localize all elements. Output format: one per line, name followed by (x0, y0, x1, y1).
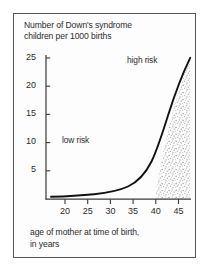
x-tick-label-35: 35 (123, 206, 143, 216)
x-axis-ticks (65, 199, 179, 204)
x-tick-label-25: 25 (78, 206, 98, 216)
x-axis-label-line-1: age of mother at time of birth, (30, 227, 195, 239)
x-tick-label-45: 45 (169, 206, 189, 216)
x-tick-label-20: 20 (55, 206, 75, 216)
x-axis-label-line-2: in years (30, 239, 195, 251)
x-tick-label-40: 40 (146, 206, 166, 216)
high-risk-annotation: high risk (127, 55, 157, 65)
y-tick-label-10: 10 (16, 136, 36, 146)
x-axis-label: age of mother at time of birth, in years (30, 227, 195, 250)
y-axis-ticks (46, 58, 50, 171)
x-tick-label-30: 30 (100, 206, 120, 216)
high-risk-shaded-region (156, 58, 190, 199)
chart-frame: Number of Down's syndrome children per 1… (13, 13, 196, 258)
chart-plot-area (14, 14, 197, 259)
y-tick-label-20: 20 (16, 80, 36, 90)
low-risk-annotation: low risk (62, 135, 89, 145)
y-tick-label-15: 15 (16, 108, 36, 118)
y-tick-label-25: 25 (16, 52, 36, 62)
y-tick-label-5: 5 (16, 164, 36, 174)
